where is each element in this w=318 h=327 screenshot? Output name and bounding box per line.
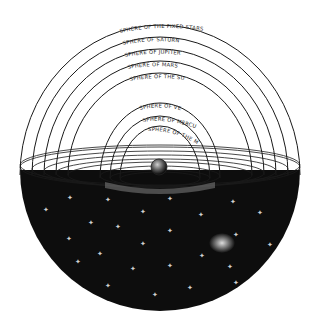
svg-text:✦: ✦ [167, 227, 173, 235]
svg-text:✦: ✦ [105, 196, 111, 204]
label-mars: SPHERE OF MARS [127, 61, 178, 70]
svg-text:✦: ✦ [187, 284, 193, 292]
svg-text:✦: ✦ [233, 231, 239, 239]
diagram-canvas: ✦✦✦✦ ✦✦✦✦ ✦✦✦✦ ✦✦✦ ✦✦✦ ✦✦✦ ✦✦✦✦ [0, 0, 318, 327]
svg-text:✦: ✦ [105, 282, 111, 290]
earth [151, 159, 167, 175]
svg-text:✦: ✦ [199, 252, 205, 260]
svg-text:✦: ✦ [167, 262, 173, 270]
svg-text:✦: ✦ [257, 209, 263, 217]
label-saturn: SPHERE OF SATURN [122, 36, 180, 46]
svg-text:✦: ✦ [88, 219, 94, 227]
geocentric-diagram: ✦✦✦✦ ✦✦✦✦ ✦✦✦✦ ✦✦✦ ✦✦✦ ✦✦✦ ✦✦✦✦ [0, 0, 318, 327]
svg-text:✦: ✦ [67, 194, 73, 202]
svg-text:✦: ✦ [140, 208, 146, 216]
label-jupiter: SPHERE OF JUPITER [124, 49, 181, 58]
svg-text:✦: ✦ [43, 206, 49, 214]
svg-text:✦: ✦ [198, 211, 204, 219]
sphere-labels: SPHERE OF THE FIXED STARS SPHERE OF SATU… [0, 0, 205, 145]
label-fixed-stars: SPHERE OF THE FIXED STARS [119, 23, 204, 34]
svg-text:✦: ✦ [230, 198, 236, 206]
svg-text:✦: ✦ [130, 265, 136, 273]
nebula [209, 233, 235, 253]
svg-text:✦: ✦ [66, 235, 72, 243]
svg-text:✦: ✦ [140, 240, 146, 248]
svg-text:✦: ✦ [227, 263, 233, 271]
svg-text:✦: ✦ [75, 258, 81, 266]
svg-text:✦: ✦ [267, 241, 273, 249]
svg-text:✦: ✦ [97, 250, 103, 258]
svg-text:✦: ✦ [152, 291, 158, 299]
svg-text:✦: ✦ [233, 279, 239, 287]
svg-text:✦: ✦ [167, 195, 173, 203]
label-venus: SPHERE OF VENUS [0, 0, 182, 111]
label-moon: SPHERE OF THE MOON [0, 0, 200, 145]
svg-text:✦: ✦ [115, 223, 121, 231]
